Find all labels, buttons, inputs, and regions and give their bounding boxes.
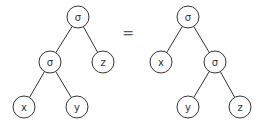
node-label: z — [100, 57, 105, 68]
node-x: x — [150, 51, 172, 73]
node-y: y — [66, 96, 88, 118]
right-tree: σ x σ y z — [150, 6, 251, 118]
tree-equality-diagram: σ σ z x y = σ x — [0, 0, 266, 125]
node-z: z — [92, 51, 114, 73]
node-label: σ — [75, 12, 82, 23]
node-label: y — [74, 102, 80, 113]
node-inner: σ — [39, 51, 61, 73]
node-label: x — [21, 102, 27, 113]
left-tree: σ σ z x y — [13, 6, 114, 118]
node-label: σ — [185, 12, 192, 23]
node-inner: σ — [204, 51, 226, 73]
node-label: σ — [47, 57, 54, 68]
node-label: σ — [212, 57, 219, 68]
node-label: z — [237, 102, 242, 113]
node-label: y — [185, 102, 191, 113]
node-root: σ — [177, 6, 199, 28]
node-label: x — [158, 57, 164, 68]
equals-sign: = — [122, 25, 134, 41]
node-y: y — [177, 96, 199, 118]
node-root: σ — [67, 6, 89, 28]
node-x: x — [13, 96, 35, 118]
node-z: z — [229, 96, 251, 118]
